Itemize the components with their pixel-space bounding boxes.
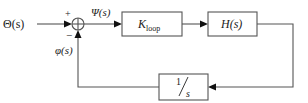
- integrator-numerator: 1: [176, 76, 181, 87]
- h-block: H(s): [208, 12, 257, 36]
- summing-junction: [72, 18, 84, 30]
- feedback-signal-label: φ(s): [55, 44, 73, 57]
- h-label: H(s): [220, 17, 242, 31]
- feedback-line: [78, 36, 159, 87]
- integrator-block: 1 s: [159, 74, 208, 100]
- integrator-denominator: s: [186, 88, 190, 99]
- h-input-arrow: [200, 21, 208, 28]
- block-diagram: Θ(s) + − Ψ(s) Kloop H(s) 1 s: [0, 0, 308, 103]
- error-signal-label: Ψ(s): [91, 6, 111, 19]
- integrator-input-arrow: [208, 84, 216, 91]
- input-arrow: [64, 21, 72, 28]
- kloop-input-arrow: [114, 21, 122, 28]
- input-signal-label: Θ(s): [3, 17, 24, 31]
- minus-sign: −: [66, 29, 72, 41]
- feedback-arrow: [75, 30, 82, 38]
- kloop-block: Kloop: [122, 12, 182, 36]
- plus-sign: +: [65, 8, 71, 19]
